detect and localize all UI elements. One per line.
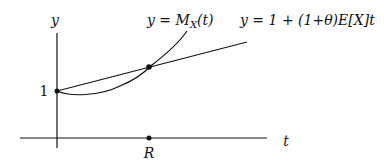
r-point	[147, 136, 152, 141]
mgf-label-tail: (t)	[197, 12, 214, 28]
t-axis-label: t	[283, 133, 289, 149]
line-label: y = 1 + (1+θ)E[X]t	[239, 12, 375, 28]
intersection-point	[146, 64, 152, 70]
y-axis-label: y	[50, 12, 60, 28]
line-curve	[57, 42, 247, 91]
mgf-label-main: y = M	[146, 12, 191, 28]
y-intercept-label: 1	[40, 83, 49, 99]
y-intercept-point	[55, 89, 60, 94]
r-label: R	[143, 145, 155, 161]
mgf-curve-label: y = MX(t)	[146, 12, 214, 30]
diagram-canvas: y t 1 R y = MX(t) y = 1 + (1+θ)E[X]t	[0, 0, 384, 164]
